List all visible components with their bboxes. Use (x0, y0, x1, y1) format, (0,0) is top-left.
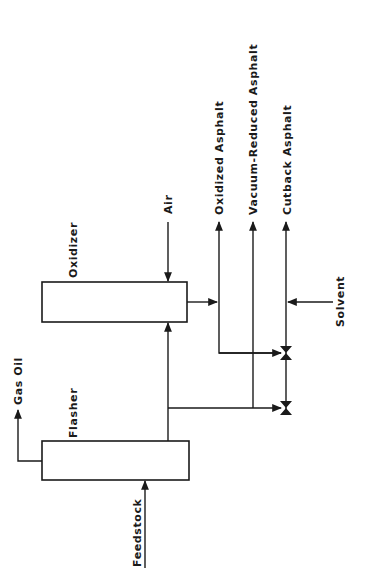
oxidized-asphalt-stream (219, 222, 281, 353)
valve-icon (280, 401, 292, 415)
vacuum-reduced-asphalt-label: Vacuum-Reduced Asphalt (247, 44, 260, 215)
feedstock-label: Feedstock (131, 498, 144, 567)
solvent-label: Solvent (334, 276, 347, 327)
gas-oil-stream (18, 410, 42, 461)
valve-icon (280, 346, 292, 360)
process-flow-diagram: Oxidizer Flasher Feedstock Gas Oil Air O… (0, 0, 366, 579)
cutback-asphalt-label: Cutback Asphalt (281, 105, 294, 215)
air-label: Air (162, 194, 175, 214)
oxidizer-label: Oxidizer (67, 222, 80, 278)
gas-oil-label: Gas Oil (12, 357, 25, 405)
flasher-label: Flasher (67, 388, 80, 438)
oxidized-asphalt-label: Oxidized Asphalt (213, 101, 226, 215)
oxidizer-unit (42, 282, 187, 322)
flasher-unit (42, 441, 189, 480)
